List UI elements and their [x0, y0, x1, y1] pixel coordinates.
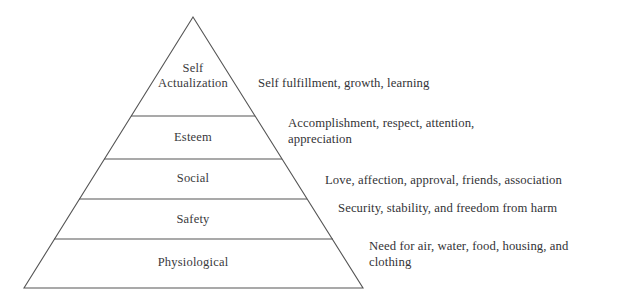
- description-safety-line1: Security, stability, and freedom from ha…: [338, 201, 557, 215]
- pyramid-triangle-outline: [24, 17, 363, 288]
- description-safety: Security, stability, and freedom from ha…: [338, 200, 557, 216]
- tier-label-self-actualization-line1: Self: [183, 61, 204, 75]
- description-esteem-line1: Accomplishment, respect, attention,: [288, 116, 474, 130]
- description-social-line1: Love, affection, approval, friends, asso…: [325, 173, 562, 187]
- description-social: Love, affection, approval, friends, asso…: [325, 172, 562, 188]
- tier-label-safety: Safety: [133, 212, 253, 227]
- tier-label-safety-line1: Safety: [176, 212, 209, 226]
- tier-label-self-actualization: Self Actualization: [133, 61, 253, 90]
- tier-label-social: Social: [133, 171, 253, 186]
- tier-label-esteem: Esteem: [133, 130, 253, 145]
- tier-label-self-actualization-line2: Actualization: [158, 76, 228, 90]
- maslow-pyramid-diagram: Self Actualization Esteem Social Safety …: [0, 0, 617, 302]
- description-esteem-line2: appreciation: [288, 131, 474, 147]
- description-physiological-line1: Need for air, water, food, housing, and: [369, 239, 568, 253]
- description-self-actualization-line1: Self fulfillment, growth, learning: [258, 76, 429, 90]
- description-esteem: Accomplishment, respect, attention, appr…: [288, 115, 474, 147]
- tier-label-social-line1: Social: [177, 171, 209, 185]
- description-self-actualization: Self fulfillment, growth, learning: [258, 75, 429, 91]
- tier-label-physiological-line1: Physiological: [158, 255, 229, 269]
- tier-label-physiological: Physiological: [133, 255, 253, 270]
- description-physiological-line2: clothing: [369, 254, 568, 270]
- tier-label-esteem-line1: Esteem: [174, 130, 212, 144]
- description-physiological: Need for air, water, food, housing, and …: [369, 238, 568, 270]
